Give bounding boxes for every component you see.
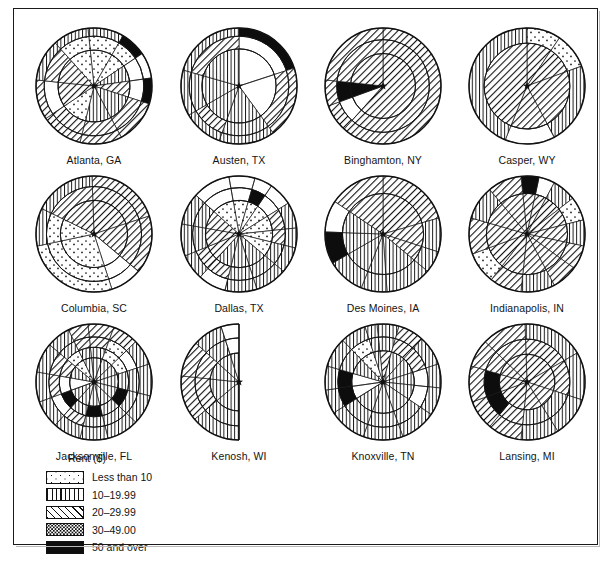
chart-des-moines-ia: Des Moines, IA: [310, 167, 456, 315]
legend-swatch-dots: [46, 471, 84, 484]
legend-label: 10–19.99: [92, 489, 136, 501]
sector: [228, 266, 254, 280]
sector: [422, 218, 441, 252]
chart-knoxville-tn: Knoxville, TN: [310, 315, 456, 463]
legend-swatch-stipple: [46, 523, 84, 536]
chart-atlanta-ga: Atlanta, GA: [21, 19, 167, 167]
legend-swatch-solid: [46, 541, 84, 554]
legend-item: 50 and over: [46, 539, 256, 555]
legend-items: Less than 1010–19.9920–29.9930–49.0050 a…: [46, 469, 256, 555]
chart-austen-tx: Austen, TX: [166, 19, 312, 167]
chart-indianapolis-in: Indianapolis, IN: [454, 167, 600, 315]
legend-label: Less than 10: [92, 471, 152, 483]
chart-label: Lansing, MI: [454, 450, 600, 462]
legend-label: 20–29.99: [92, 506, 136, 518]
chart-label: Atlanta, GA: [21, 154, 167, 166]
sector: [83, 416, 105, 427]
legend-swatch-vert: [46, 488, 84, 501]
chart-casper-wy: Casper, WY: [454, 19, 600, 167]
chart-label: Indianapolis, IN: [454, 302, 600, 314]
legend-item: Less than 10: [46, 469, 256, 485]
sector: [337, 81, 353, 102]
legend-title: Rent ($): [68, 452, 256, 464]
sector: [117, 371, 129, 390]
chart-label: Binghamton, NY: [310, 154, 456, 166]
chart-binghamton-ny: Binghamton, NY: [310, 19, 456, 167]
sector: [59, 376, 71, 394]
sector: [377, 324, 399, 339]
sector: [484, 370, 501, 397]
sector: [566, 220, 585, 246]
legend-item: 30–49.00: [46, 522, 256, 538]
chart-dallas-tx: Dallas, TX: [166, 167, 312, 315]
chart-kenosh-wi: Kenosh, WI: [166, 315, 312, 463]
legend-label: 30–49.00: [92, 524, 136, 536]
chart-columbia-sc: Columbia, SC: [21, 167, 167, 315]
chart-lansing-mi: Lansing, MI: [454, 315, 600, 463]
chart-jacksonville-fl: Jacksonville, FL: [21, 315, 167, 463]
sector: [284, 228, 297, 248]
legend: Rent ($) Less than 1010–19.9920–29.9930–…: [46, 452, 256, 557]
legend-swatch-diag: [46, 506, 84, 519]
sector: [368, 411, 399, 427]
sector: [86, 406, 103, 417]
chart-label: Knoxville, TN: [310, 450, 456, 462]
legend-item: 10–19.99: [46, 487, 256, 503]
legend-item: 20–29.99: [46, 504, 256, 520]
sector: [325, 366, 340, 390]
sector: [469, 218, 489, 254]
chart-label: Dallas, TX: [166, 302, 312, 314]
chart-label: Austen, TX: [166, 154, 312, 166]
chart-label: Casper, WY: [454, 154, 600, 166]
chart-label: Columbia, SC: [21, 302, 167, 314]
chart-label: Des Moines, IA: [310, 302, 456, 314]
legend-label: 50 and over: [92, 541, 147, 553]
figure-root: Atlanta, GA Austen, TX: [0, 0, 611, 580]
sector: [80, 426, 108, 440]
figure-frame: Atlanta, GA Austen, TX: [13, 8, 598, 545]
